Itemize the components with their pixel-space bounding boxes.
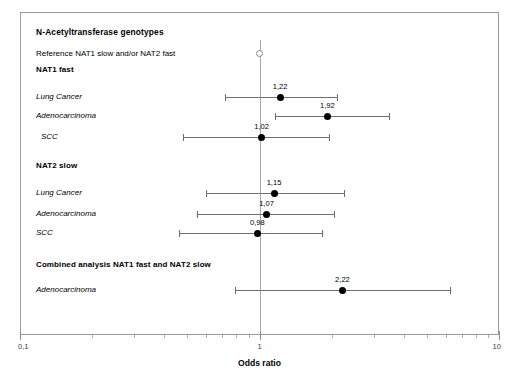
axis-minor-tick: [164, 335, 165, 338]
confidence-interval-cap-low: [235, 287, 236, 294]
confidence-interval-cap-low: [197, 211, 198, 218]
odds-ratio-value-label: 1,92: [320, 101, 335, 110]
odds-ratio-marker: [263, 211, 270, 218]
forest-plot: N-Acetyltransferase genotypesReference N…: [0, 0, 518, 376]
confidence-interval-cap-low: [183, 134, 184, 141]
axis-major-tick: [260, 331, 261, 340]
axis-minor-tick: [446, 335, 447, 338]
confidence-interval-cap-high: [329, 134, 330, 141]
odds-ratio-value-label: 0,98: [250, 218, 265, 227]
axis-minor-tick: [462, 335, 463, 338]
odds-ratio-value-label: 2,22: [335, 275, 350, 284]
study-label: Adenocarcinoma: [36, 286, 96, 294]
section-heading-1: NAT1 fast: [36, 66, 74, 74]
confidence-interval-cap-low: [225, 94, 226, 101]
confidence-interval-cap-high: [337, 94, 338, 101]
odds-ratio-marker: [254, 230, 261, 237]
axis-minor-tick: [476, 335, 477, 338]
confidence-interval-cap-high: [334, 211, 335, 218]
study-label: SCC: [36, 229, 53, 237]
axis-minor-tick: [187, 335, 188, 338]
page-title: N-Acetyltransferase genotypes: [36, 28, 164, 36]
axis-minor-tick: [427, 335, 428, 338]
odds-ratio-marker: [324, 113, 331, 120]
study-label: Lung Cancer: [36, 189, 82, 197]
confidence-interval-cap-high: [322, 230, 323, 237]
odds-ratio-marker: [271, 190, 278, 197]
axis-minor-tick: [236, 335, 237, 338]
axis-tick-label: 10: [493, 342, 501, 351]
axis-tick-label: 1: [257, 342, 261, 351]
axis-minor-tick: [404, 335, 405, 338]
study-label: Adenocarcinoma: [36, 210, 96, 218]
reference-marker-open-circle: [256, 50, 263, 57]
confidence-interval-line: [275, 116, 389, 117]
axis-major-tick: [20, 331, 21, 340]
odds-ratio-marker: [258, 134, 265, 141]
confidence-interval-line: [183, 137, 329, 138]
confidence-interval-cap-high: [389, 113, 390, 120]
odds-ratio-value-label: 1,22: [273, 82, 288, 91]
confidence-interval-cap-high: [344, 190, 345, 197]
odds-ratio-value-label: 1,02: [254, 122, 269, 131]
section-heading-2: NAT2 slow: [36, 162, 77, 170]
confidence-interval-cap-low: [206, 190, 207, 197]
confidence-interval-cap-low: [275, 113, 276, 120]
axis-minor-tick: [222, 335, 223, 338]
axis-tick-label: 0,1: [18, 342, 29, 351]
axis-minor-tick: [92, 335, 93, 338]
axis-minor-tick: [134, 335, 135, 338]
axis-minor-tick: [206, 335, 207, 338]
study-label: Lung Cancer: [36, 93, 82, 101]
axis-minor-tick: [488, 335, 489, 338]
odds-ratio-marker: [277, 94, 284, 101]
confidence-interval-cap-low: [179, 230, 180, 237]
axis-major-tick: [499, 331, 500, 340]
axis-minor-tick: [249, 335, 250, 338]
axis-minor-tick: [332, 335, 333, 338]
study-label: Adenocarcinoma: [36, 112, 96, 120]
odds-ratio-marker: [339, 287, 346, 294]
confidence-interval-cap-high: [450, 287, 451, 294]
axis-minor-tick: [374, 335, 375, 338]
reference-description: Reference NAT1 slow and/or NAT2 fast: [36, 50, 175, 58]
section-heading-3: Combined analysis NAT1 fast and NAT2 slo…: [36, 261, 211, 269]
odds-ratio-value-label: 1,15: [267, 178, 282, 187]
confidence-interval-line: [179, 233, 323, 234]
odds-ratio-value-label: 1,07: [259, 199, 274, 208]
study-label: SCC: [41, 133, 58, 141]
x-axis-title: Odds ratio: [238, 358, 281, 368]
